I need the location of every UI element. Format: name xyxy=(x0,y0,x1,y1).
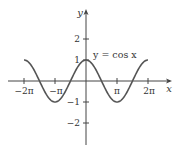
x-tick-label: π xyxy=(114,86,120,96)
cosine-chart: −2π −π π 2π 2 1 −1 −2 x y y = cos x xyxy=(0,0,180,150)
y-tick-label: −1 xyxy=(67,97,80,107)
y-tick-label: 1 xyxy=(74,55,80,65)
x-tick-label: −2π xyxy=(14,86,33,96)
y-axis-label: y xyxy=(76,7,83,18)
x-axis-label: x xyxy=(166,83,172,94)
y-tick-label: −2 xyxy=(67,118,80,128)
x-tick-label: 2π xyxy=(143,86,155,96)
y-tick-label: 2 xyxy=(74,34,80,44)
curve-annotation: y = cos x xyxy=(92,49,137,60)
x-tick-label: −π xyxy=(49,86,63,96)
